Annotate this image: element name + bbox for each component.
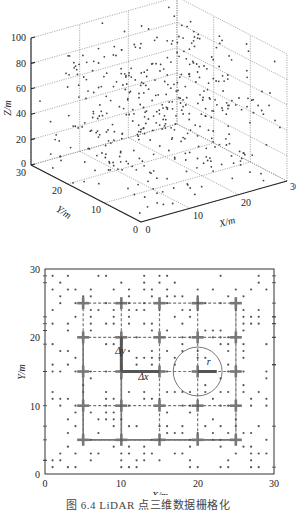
y-tick-0: 0 [133, 224, 138, 235]
x-tick-20: 20 [193, 478, 203, 489]
y-tick-30: 30 [16, 167, 26, 178]
y-tick-10: 10 [91, 204, 101, 215]
y-tick-30: 30 [30, 264, 40, 275]
radius-label: r [207, 356, 211, 367]
y-tick-0: 0 [35, 469, 40, 480]
z-tick-40: 40 [16, 108, 26, 119]
x-tick-30: 30 [290, 181, 296, 192]
z-tick-20: 20 [16, 134, 26, 145]
x-tick-0: 0 [43, 478, 48, 489]
x-tick-30: 30 [269, 478, 279, 489]
x-tick-10: 10 [193, 210, 203, 221]
x-tick-0: 0 [146, 224, 151, 235]
x-axis-label: X/m [151, 490, 168, 495]
z-tick-60: 60 [16, 83, 26, 94]
y-axis-label: Y/m [54, 203, 73, 221]
y-tick-20: 20 [30, 332, 40, 343]
axes-3d [31, 37, 287, 222]
y-axis-label: Y/m [16, 364, 27, 380]
y-tick-20: 20 [52, 185, 62, 196]
x-tick-10: 10 [116, 478, 126, 489]
ticks-3d: 100 80 60 40 20 0 30 20 10 0 0 10 20 30 [11, 32, 296, 235]
grid-rasterization-plot: Δy Δx r 30 20 10 0 0 10 20 30 Y/m X/m [0, 255, 296, 495]
y-tick-10: 10 [30, 401, 40, 412]
delta-y-label: Δy [114, 345, 126, 356]
highlight-edges [121, 337, 216, 371]
scatter-3d-plot: 100 80 60 40 20 0 30 20 10 0 0 10 20 30 … [0, 0, 296, 250]
figure-caption: 图 6.4 LiDAR 点三维数据栅格化 [0, 496, 296, 512]
delta-x-label: Δx [137, 371, 149, 382]
x-axis-label: X/m [217, 214, 236, 229]
z-tick-100: 100 [11, 32, 26, 43]
z-tick-80: 80 [16, 58, 26, 69]
points-3d [39, 6, 281, 214]
z-axis-label: Z/m [2, 100, 13, 116]
x-tick-20: 20 [241, 197, 251, 208]
